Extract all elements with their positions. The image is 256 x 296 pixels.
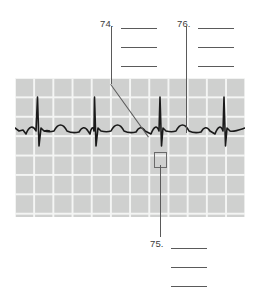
callout-75-leader-vertical [160,165,161,237]
callout-75-answer-line-1[interactable] [171,248,207,249]
callout-76-answer-line-2[interactable] [198,47,234,48]
callout-76-answer-line-3[interactable] [198,66,234,67]
callout-74-answer-line-2[interactable] [121,47,157,48]
callout-76-number: 76. [177,19,191,29]
callout-74-leader-vertical [111,26,112,84]
callout-74-answer-line-1[interactable] [121,28,157,29]
callout-76-answer-line-1[interactable] [198,28,234,29]
callout-74-answer-line-3[interactable] [121,66,157,67]
callout-75-number: 75. [150,239,164,249]
ecg-waveform-trace [15,78,245,217]
callout-75-answer-line-3[interactable] [171,286,207,287]
ecg-labeling-figure: 74. 76. 75. [0,0,256,296]
callout-76-leader-vertical [186,26,187,133]
ecg-rhythm-strip [15,78,245,217]
callout-75-answer-line-2[interactable] [171,267,207,268]
